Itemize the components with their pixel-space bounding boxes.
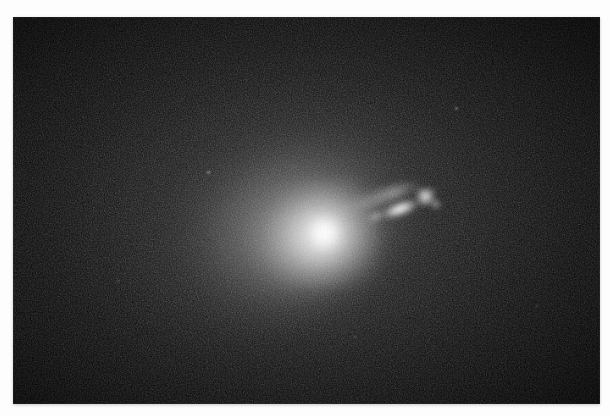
jet-beam	[337, 177, 423, 217]
field-star-1	[207, 171, 210, 174]
sky-background	[13, 17, 600, 404]
field-stars	[13, 17, 600, 404]
jet-knot-main	[375, 193, 424, 226]
plate-vignette	[13, 17, 600, 404]
galaxy-halo-outer	[20, 17, 556, 404]
jet-knot-outer	[415, 187, 436, 206]
field-star-2	[455, 107, 458, 110]
jet-knot-tip	[430, 199, 442, 210]
field-star-5	[354, 336, 356, 338]
field-star-3	[536, 305, 538, 307]
galaxy-nucleus-core	[305, 215, 343, 251]
relativistic-jet	[13, 17, 600, 404]
film-grain-bright	[13, 17, 600, 404]
galaxy-halo-mid	[122, 69, 475, 389]
galaxy-halo-inner	[207, 139, 428, 341]
astronomical-image-plate	[13, 17, 600, 404]
field-star-4	[117, 280, 119, 282]
galaxy-nucleus	[13, 17, 600, 404]
galaxy-halo	[13, 17, 600, 404]
galaxy-nucleus-glow	[268, 179, 380, 287]
page-background	[0, 0, 610, 416]
film-grain-dark	[13, 17, 600, 404]
plate-edge-trim	[13, 17, 600, 404]
jet-knot-inner	[364, 208, 388, 226]
